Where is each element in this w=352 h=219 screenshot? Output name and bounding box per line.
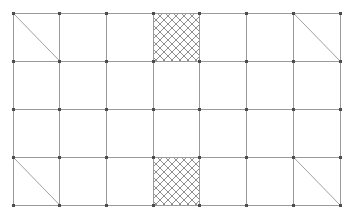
- grid-node-r2-c6: [292, 108, 295, 111]
- grid-node-r4-c7: [339, 204, 342, 207]
- grid-node-r4-c2: [105, 204, 108, 207]
- grid-node-r0-c7: [339, 12, 342, 15]
- grid-node-r1-c7: [339, 60, 342, 63]
- grid-node-r3-c1: [58, 156, 61, 159]
- grid-node-r0-c2: [105, 12, 108, 15]
- grid-node-r3-c6: [292, 156, 295, 159]
- grid-node-r0-c6: [292, 12, 295, 15]
- grid-node-r2-c7: [339, 108, 342, 111]
- grid-node-r0-c5: [245, 12, 248, 15]
- grid-node-r2-c2: [105, 108, 108, 111]
- grid-node-r1-c5: [245, 60, 248, 63]
- grid-node-r4-c3: [152, 204, 155, 207]
- grid-node-r1-c0: [12, 60, 15, 63]
- grid-node-r1-c2: [105, 60, 108, 63]
- grid-node-r2-c5: [245, 108, 248, 111]
- grid-node-r2-c1: [58, 108, 61, 111]
- shear-panel-bottom: [153, 157, 200, 205]
- grid-node-r3-c5: [245, 156, 248, 159]
- grid-node-r3-c0: [12, 156, 15, 159]
- grid-node-r1-c3: [152, 60, 155, 63]
- grid-node-r4-c6: [292, 204, 295, 207]
- grid-node-r3-c7: [339, 156, 342, 159]
- grid-node-r4-c0: [12, 204, 15, 207]
- grid-node-r0-c0: [12, 12, 15, 15]
- frame-canvas: [0, 0, 352, 219]
- grid-node-r4-c4: [198, 204, 201, 207]
- grid-node-r3-c3: [152, 156, 155, 159]
- grid-node-r4-c5: [245, 204, 248, 207]
- grid-node-r0-c1: [58, 12, 61, 15]
- grid-node-r4-c1: [58, 204, 61, 207]
- structural-frame-diagram: [0, 0, 352, 219]
- grid-node-r2-c0: [12, 108, 15, 111]
- grid-node-r0-c4: [198, 12, 201, 15]
- grid-node-r2-c3: [152, 108, 155, 111]
- grid-node-r1-c6: [292, 60, 295, 63]
- grid-node-r3-c4: [198, 156, 201, 159]
- grid-node-r0-c3: [152, 12, 155, 15]
- grid-node-r2-c4: [198, 108, 201, 111]
- grid-node-r1-c1: [58, 60, 61, 63]
- grid-node-r3-c2: [105, 156, 108, 159]
- shear-panel-top: [153, 13, 200, 61]
- grid-node-r1-c4: [198, 60, 201, 63]
